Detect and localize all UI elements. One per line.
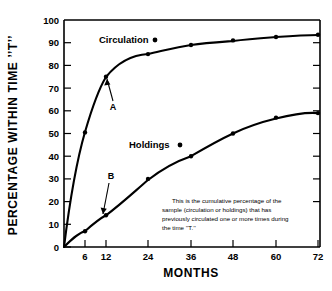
y-tick-label: 0: [54, 242, 59, 253]
x-axis-title: MONTHS: [163, 266, 219, 280]
x-tick-labels: 6 12 24 36 48 60 72: [82, 251, 323, 262]
circulation-label: Circulation: [99, 34, 149, 45]
data-point: [146, 177, 150, 181]
curve-label-b: B: [108, 171, 115, 181]
curve-label-a-group: A: [104, 79, 117, 112]
data-point: [146, 52, 150, 56]
data-point: [274, 35, 278, 39]
note-line: the time ’’T.’’: [162, 224, 196, 231]
x-tick-label: 72: [313, 251, 324, 262]
y-tick-label: 50: [48, 128, 59, 139]
percentage-within-time-chart: 0 10 20 30 40 50 60 70 80 90 100 6 12 24: [0, 0, 332, 291]
circulation-legend-marker: [153, 38, 158, 43]
y-tick-label: 10: [48, 219, 59, 230]
note-line: This is the cumulative percentage of the: [172, 197, 282, 204]
holdings-legend-marker: [178, 143, 183, 148]
chart-note: This is the cumulative percentage of the…: [162, 197, 289, 231]
curve-label-a: A: [110, 102, 117, 112]
y-tick-label: 20: [48, 196, 59, 207]
x-tick-label: 6: [82, 251, 87, 262]
x-tick-label: 24: [143, 251, 154, 262]
x-tick-label: 12: [101, 251, 112, 262]
x-tick-label: 60: [271, 251, 282, 262]
y-tick-label: 60: [48, 105, 59, 116]
data-point: [104, 75, 108, 79]
data-point: [104, 213, 108, 217]
y-tick-labels: 0 10 20 30 40 50 60 70 80 90 100: [43, 15, 59, 253]
data-point: [316, 111, 320, 115]
legend-holdings: Holdings: [129, 139, 182, 150]
data-point: [316, 33, 320, 37]
y-tick-label: 80: [48, 60, 59, 71]
y-tick-label: 70: [48, 83, 59, 94]
data-point: [83, 229, 87, 233]
arrow-head-b: [101, 207, 107, 214]
y-axis-ticks-right: [313, 43, 320, 202]
y-tick-label: 100: [43, 15, 59, 26]
y-tick-label: 40: [48, 151, 59, 162]
x-tick-label: 36: [186, 251, 197, 262]
note-line: previously circulated one or more times …: [162, 215, 289, 222]
legend-circulation: Circulation: [99, 34, 157, 45]
note-line: sample (circulation or holdings) that ha…: [162, 206, 271, 213]
y-tick-label: 90: [48, 37, 59, 48]
chart-figure: 0 10 20 30 40 50 60 70 80 90 100 6 12 24: [0, 0, 332, 291]
data-point: [231, 131, 235, 135]
y-axis-title: PERCENTAGE WITHIN TIME ’’T’’: [6, 35, 20, 235]
x-axis-ticks: [85, 240, 318, 247]
data-point: [231, 38, 235, 42]
y-tick-label: 30: [48, 173, 59, 184]
data-point: [189, 154, 193, 158]
holdings-label: Holdings: [129, 139, 170, 150]
data-point: [83, 130, 87, 134]
data-point: [189, 43, 193, 47]
x-tick-label: 48: [228, 251, 239, 262]
data-point: [274, 115, 278, 119]
curve-label-b-group: B: [101, 171, 115, 214]
